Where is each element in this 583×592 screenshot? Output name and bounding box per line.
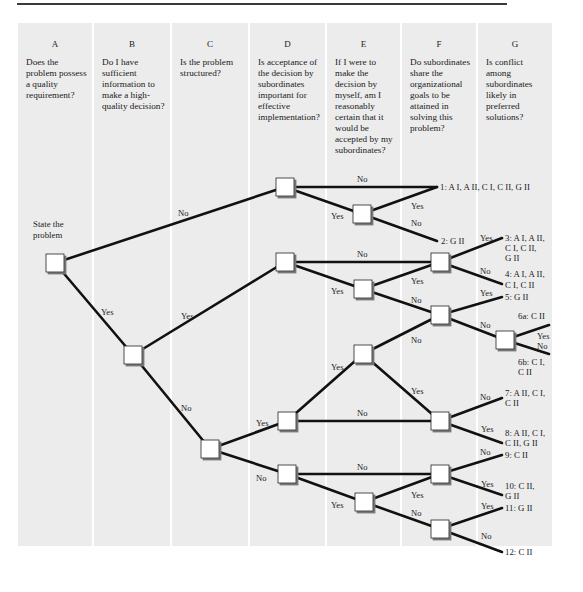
branch-label-yes: Yes bbox=[256, 418, 269, 428]
outcome-8-cont: C II, G II bbox=[505, 438, 538, 448]
outcome-2: 2: G II bbox=[441, 236, 464, 246]
node-g bbox=[496, 331, 514, 349]
branch-label-yes: Yes bbox=[411, 490, 424, 500]
outcome-3-cont: C I, C II, bbox=[505, 243, 537, 253]
branch-label-no: No bbox=[411, 335, 422, 345]
branch-label-no: No bbox=[481, 531, 492, 541]
outcome-7: 7: A II, C I, bbox=[505, 388, 545, 398]
outcome-8: 8: A II, C I, bbox=[505, 428, 545, 438]
branch-label-no: No bbox=[178, 208, 189, 218]
branch-label-yes: Yes bbox=[537, 331, 550, 341]
node-f1 bbox=[431, 253, 449, 271]
branch-label-yes: Yes bbox=[331, 362, 344, 372]
branch-label-yes: Yes bbox=[481, 424, 494, 434]
outcome-10-cont: G II bbox=[505, 491, 519, 501]
node-e3 bbox=[354, 345, 372, 363]
branch-label-yes: Yes bbox=[481, 479, 494, 489]
branch-label-no: No bbox=[357, 174, 368, 184]
outcome-10: 10: C II, bbox=[505, 481, 535, 491]
branch-label-yes: Yes bbox=[411, 276, 424, 286]
branch-label-no: No bbox=[480, 320, 491, 330]
branch-label-yes: Yes bbox=[480, 233, 493, 243]
outcome-5: 5: G II bbox=[505, 292, 528, 302]
branch-label-no: No bbox=[357, 249, 368, 259]
branch-label-no: No bbox=[480, 447, 491, 457]
outcome-6b-cont: C II bbox=[518, 367, 532, 377]
outcome-11: 11: G II bbox=[505, 503, 533, 513]
decision-tree bbox=[0, 0, 583, 592]
node-b bbox=[124, 346, 142, 364]
outcome-3-cont: G II bbox=[505, 253, 519, 263]
node-f5 bbox=[431, 520, 449, 538]
node-f3 bbox=[431, 412, 449, 430]
branch-label-no: No bbox=[357, 408, 368, 418]
node-d4 bbox=[278, 465, 296, 483]
outcome-6a: 6a: C II bbox=[518, 311, 545, 321]
branch-label-no: No bbox=[480, 392, 491, 402]
outcome-9: 9: C II bbox=[505, 450, 528, 460]
outcome-12: 12: C II bbox=[505, 547, 532, 557]
branch-label-no: No bbox=[411, 508, 422, 518]
node-c bbox=[201, 440, 219, 458]
branch-label-no: No bbox=[357, 462, 368, 472]
branch-label-yes: Yes bbox=[331, 286, 344, 296]
branch-label-yes: Yes bbox=[101, 307, 114, 317]
start-label: State the problem bbox=[33, 219, 73, 240]
node-e1 bbox=[353, 205, 371, 223]
branch-label-no: No bbox=[537, 341, 548, 351]
branch-label-yes: Yes bbox=[411, 201, 424, 211]
node-e2 bbox=[354, 280, 372, 298]
branch-label-no: No bbox=[411, 295, 422, 305]
outcome-4-cont: C I, C II bbox=[505, 280, 534, 290]
branch-label-yes: Yes bbox=[331, 500, 344, 510]
outcome-6b: 6b: C I, bbox=[518, 357, 545, 367]
node-e5 bbox=[355, 493, 373, 511]
outcome-3: 3: A I, A II, bbox=[505, 233, 545, 243]
branch-label-no: No bbox=[480, 266, 491, 276]
outcome-1: 1: A I, A II, C I, C II, G II bbox=[440, 182, 530, 192]
node-d3 bbox=[278, 412, 296, 430]
node-f2 bbox=[431, 306, 449, 324]
branch-label-no: No bbox=[411, 218, 422, 228]
branch-label-no: No bbox=[181, 403, 192, 413]
node-f4 bbox=[431, 465, 449, 483]
branch-label-yes: Yes bbox=[331, 211, 344, 221]
outcome-7-cont: C II bbox=[505, 398, 519, 408]
branch-label-yes: Yes bbox=[481, 501, 494, 511]
branch-label-yes: Yes bbox=[181, 311, 194, 321]
branch-label-yes: Yes bbox=[411, 386, 424, 396]
branch-label-yes: Yes bbox=[480, 288, 493, 298]
node-start bbox=[46, 254, 64, 272]
outcome-4: 4: A I, A II, bbox=[505, 269, 545, 279]
branch-label-no: No bbox=[256, 473, 267, 483]
node-d1 bbox=[276, 178, 294, 196]
node-d2 bbox=[276, 253, 294, 271]
